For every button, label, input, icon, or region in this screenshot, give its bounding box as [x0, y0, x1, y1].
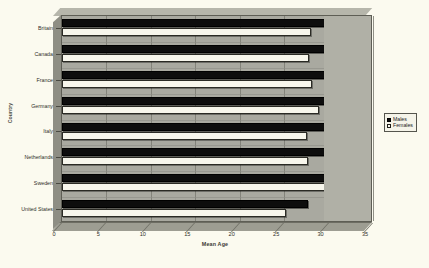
x-axis-tick-label: 15	[177, 231, 197, 237]
x-axis-tick-label: 20	[222, 231, 242, 237]
y-axis-category-label: United States	[0, 206, 53, 212]
category-separator	[62, 94, 371, 95]
y-axis-tick	[56, 106, 61, 107]
y-axis-tick	[56, 80, 61, 81]
y-axis-category-label: Canada	[0, 51, 53, 57]
y-axis-tick	[56, 131, 61, 132]
y-axis-category-label: Netherlands	[0, 154, 53, 160]
bar-males-germany	[62, 97, 343, 105]
bar-females-britain	[62, 28, 311, 36]
category-separator	[62, 197, 371, 198]
legend-item-females[interactable]: Females	[387, 123, 413, 128]
bar-chart-figure: Country 05101520253035BritainCanadaFranc…	[0, 0, 429, 268]
y-axis-category-label: Germany	[0, 103, 53, 109]
bar-females-france	[62, 80, 312, 88]
plot-left-bevel	[53, 15, 61, 229]
legend-label-females: Females	[393, 123, 413, 128]
y-axis-category-label: Britain	[0, 25, 53, 31]
bar-females-canada	[62, 54, 309, 62]
category-separator	[62, 145, 371, 146]
y-axis-tick	[56, 54, 61, 55]
y-axis-category-label: France	[0, 77, 53, 83]
bar-females-sweden	[62, 183, 325, 191]
bar-males-canada	[62, 45, 329, 53]
y-axis-category-label: Italy	[0, 128, 53, 134]
y-axis-category-label: Sweden	[0, 180, 53, 186]
bar-males-france	[62, 71, 329, 79]
bar-females-italy	[62, 132, 307, 140]
x-axis-tick-label: 10	[133, 231, 153, 237]
y-axis-tick	[56, 157, 61, 158]
bar-females-united-states	[62, 209, 286, 217]
x-axis-tick-label: 0	[44, 231, 64, 237]
x-axis-tick-label: 30	[311, 231, 331, 237]
bar-males-britain	[62, 19, 334, 27]
bar-females-netherlands	[62, 157, 308, 165]
category-separator	[62, 171, 371, 172]
plot-area	[61, 15, 372, 222]
gridline	[373, 16, 374, 221]
bar-males-sweden	[62, 174, 348, 182]
gridline	[329, 16, 330, 221]
legend-swatch-females-icon	[387, 124, 391, 128]
x-axis-title: Mean Age	[60, 241, 370, 247]
bar-males-netherlands	[62, 148, 332, 156]
bar-females-germany	[62, 106, 319, 114]
x-axis-tick-label: 25	[266, 231, 286, 237]
bar-males-italy	[62, 123, 330, 131]
y-axis-tick	[56, 209, 61, 210]
category-separator	[62, 42, 371, 43]
y-axis-tick	[56, 28, 61, 29]
chart-legend[interactable]: Males Females	[384, 113, 417, 132]
bar-males-united-states	[62, 200, 308, 208]
category-separator	[62, 68, 371, 69]
legend-swatch-males-icon	[387, 118, 391, 122]
category-separator	[62, 120, 371, 121]
x-axis-tick-label: 5	[88, 231, 108, 237]
x-axis-tick-label: 35	[355, 231, 375, 237]
y-axis-tick	[56, 183, 61, 184]
